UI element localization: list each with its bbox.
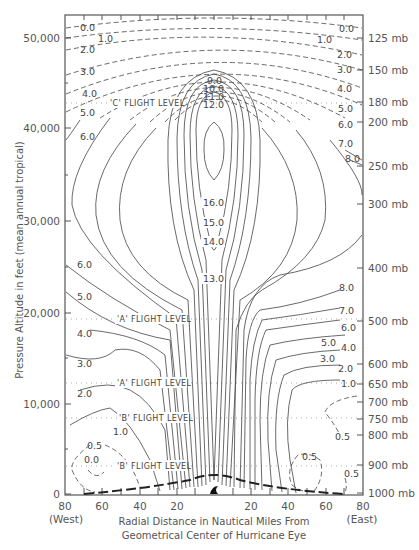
svg-text:6.0: 6.0	[80, 131, 95, 142]
svg-text:125 mb: 125 mb	[368, 32, 409, 44]
flight-level-b-lower-label: 'B' FLIGHT LEVEL	[117, 462, 192, 471]
svg-text:16.0: 16.0	[203, 197, 224, 208]
svg-text:60: 60	[319, 500, 332, 512]
svg-text:1.0: 1.0	[113, 426, 128, 437]
y-axis-title: Pressure Altitude in feet (mean annual t…	[14, 141, 25, 378]
svg-text:0.5: 0.5	[87, 440, 102, 451]
svg-text:1000 mb: 1000 mb	[368, 487, 415, 499]
hurricane-eye-marker-icon	[210, 486, 218, 494]
svg-text:0.0: 0.0	[339, 23, 354, 34]
svg-text:40: 40	[281, 500, 294, 512]
right-ticks	[357, 38, 363, 493]
svg-text:1.0: 1.0	[341, 378, 356, 389]
svg-text:0.5: 0.5	[344, 468, 359, 479]
svg-text:500 mb: 500 mb	[368, 315, 409, 327]
svg-text:3.0: 3.0	[320, 353, 335, 364]
left-ticks	[65, 38, 71, 494]
svg-text:800 mb: 800 mb	[368, 429, 409, 441]
svg-text:6.0: 6.0	[338, 119, 353, 130]
svg-text:4.0: 4.0	[77, 328, 92, 339]
svg-text:3.0: 3.0	[80, 66, 95, 77]
flight-level-b-upper-label: 'B' FLIGHT LEVEL	[119, 414, 194, 423]
svg-text:40,000: 40,000	[23, 122, 60, 134]
svg-text:7.0: 7.0	[338, 138, 353, 149]
svg-text:4.0: 4.0	[82, 88, 97, 99]
svg-text:50,000: 50,000	[23, 32, 60, 44]
svg-text:3.0: 3.0	[77, 358, 92, 369]
flight-level-labels: 'C' FLIGHT LEVEL 'A' FLIGHT LEVEL 'A' FL…	[108, 97, 194, 471]
svg-text:180 mb: 180 mb	[368, 96, 409, 108]
svg-text:8.0: 8.0	[339, 282, 354, 293]
flight-level-a-upper-label: 'A' FLIGHT LEVEL	[117, 315, 192, 324]
svg-text:7.0: 7.0	[339, 305, 354, 316]
svg-text:750 mb: 750 mb	[368, 413, 409, 425]
svg-text:0.0: 0.0	[84, 454, 99, 465]
svg-text:15.0: 15.0	[203, 217, 224, 228]
svg-text:400 mb: 400 mb	[368, 262, 409, 274]
svg-text:1.0: 1.0	[317, 34, 332, 45]
svg-text:2.0: 2.0	[77, 388, 92, 399]
svg-text:(West): (West)	[49, 513, 83, 525]
svg-text:2.0: 2.0	[337, 49, 352, 60]
left-contour-labels: 0.0 1.0 2.0 3.0 4.0 5.0 6.0 6.0 5.0 4.0 …	[77, 22, 128, 465]
svg-text:4.0: 4.0	[337, 83, 352, 94]
svg-text:4.0: 4.0	[341, 342, 356, 353]
svg-text:5.0: 5.0	[338, 103, 353, 114]
svg-text:5.0: 5.0	[321, 337, 336, 348]
svg-text:(East): (East)	[347, 513, 378, 525]
svg-text:250 mb: 250 mb	[368, 160, 409, 172]
svg-text:0.5: 0.5	[335, 431, 350, 442]
svg-text:5.0: 5.0	[77, 291, 92, 302]
svg-text:12.0: 12.0	[203, 99, 224, 110]
x-axis-title-line2: Geometrical Center of Hurricane Eye	[122, 530, 306, 541]
svg-text:0: 0	[53, 488, 60, 500]
svg-text:20: 20	[244, 500, 257, 512]
svg-text:150 mb: 150 mb	[368, 64, 409, 76]
y-axis-tick-labels: 0 10,000 20,000 30,000 40,000 50,000	[23, 32, 60, 500]
svg-text:200 mb: 200 mb	[368, 116, 409, 128]
svg-text:2.0: 2.0	[338, 363, 353, 374]
pressure-axis-labels: 125 mb 150 mb 180 mb 200 mb 250 mb 300 m…	[368, 32, 415, 499]
svg-text:5.0: 5.0	[80, 107, 95, 118]
svg-text:2.0: 2.0	[80, 44, 95, 55]
svg-text:650 mb: 650 mb	[368, 378, 409, 390]
x-axis-title-line1: Radial Distance in Nautical Miles From	[119, 516, 310, 527]
svg-text:10,000: 10,000	[23, 398, 60, 410]
svg-text:20: 20	[170, 500, 183, 512]
svg-text:14.0: 14.0	[203, 236, 224, 247]
svg-text:300 mb: 300 mb	[368, 198, 409, 210]
hurricane-temperature-anomaly-chart: 'C' FLIGHT LEVEL 'A' FLIGHT LEVEL 'A' FL…	[0, 0, 419, 550]
svg-text:1.0: 1.0	[98, 33, 113, 44]
svg-text:20,000: 20,000	[23, 307, 60, 319]
chart-canvas: 'C' FLIGHT LEVEL 'A' FLIGHT LEVEL 'A' FL…	[0, 0, 419, 550]
svg-text:80: 80	[58, 500, 71, 512]
svg-text:0.0: 0.0	[80, 22, 95, 33]
svg-text:900 mb: 900 mb	[368, 459, 409, 471]
svg-text:40: 40	[133, 500, 146, 512]
svg-text:6.0: 6.0	[341, 322, 356, 333]
svg-text:6.0: 6.0	[77, 259, 92, 270]
svg-text:30,000: 30,000	[23, 215, 60, 227]
svg-text:60: 60	[95, 500, 108, 512]
svg-text:80: 80	[356, 500, 369, 512]
svg-text:3.0: 3.0	[337, 64, 352, 75]
top-ticks	[84, 15, 344, 20]
svg-text:700 mb: 700 mb	[368, 396, 409, 408]
solid-contours-broad	[66, 118, 362, 493]
flight-level-a-lower-label: 'A' FLIGHT LEVEL	[117, 379, 192, 388]
svg-text:0.5: 0.5	[302, 451, 317, 462]
right-contour-labels: 0.0 1.0 2.0 3.0 4.0 5.0 6.0 7.0 8.0 8.0 …	[302, 23, 360, 479]
svg-text:600 mb: 600 mb	[368, 358, 409, 370]
svg-text:13.0: 13.0	[203, 273, 224, 284]
flight-level-c-label: 'C' FLIGHT LEVEL	[110, 99, 185, 108]
svg-text:8.0: 8.0	[345, 153, 360, 164]
